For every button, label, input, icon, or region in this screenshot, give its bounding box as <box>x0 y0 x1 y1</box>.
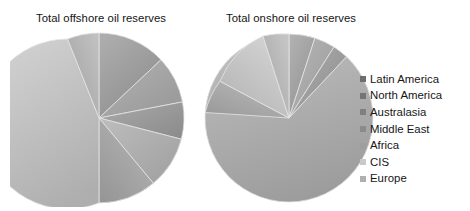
legend-item-cis[interactable]: CIS <box>360 154 468 171</box>
legend-label: Middle East <box>370 123 430 136</box>
legend-item-australasia[interactable]: Australasia <box>360 104 468 121</box>
legend-item-middle-east[interactable]: Middle East <box>360 121 468 138</box>
legend-item-north-america[interactable]: North America <box>360 88 468 105</box>
legend-swatch-icon <box>360 93 366 99</box>
legend-swatch-icon <box>360 143 366 149</box>
legend-swatch-icon <box>360 109 366 115</box>
legend-label: Africa <box>370 139 399 152</box>
chart-offshore-title: Total offshore oil reserves <box>6 12 196 25</box>
legend-item-latin-america[interactable]: Latin America <box>360 71 468 88</box>
legend-swatch-icon <box>360 159 366 165</box>
legend: Latin America North America Australasia … <box>360 71 468 187</box>
legend-item-africa[interactable]: Africa <box>360 137 468 154</box>
chart-onshore-title: Total onshore oil reserves <box>196 12 386 25</box>
legend-label: Latin America <box>370 73 439 86</box>
legend-swatch-icon <box>360 76 366 82</box>
legend-swatch-icon <box>360 126 366 132</box>
legend-label: Australasia <box>370 106 426 119</box>
legend-label: North America <box>370 89 442 102</box>
pie-offshore <box>10 29 188 207</box>
figure-canvas: Total offshore oil reserves <box>0 0 470 211</box>
pie-onshore <box>200 29 378 207</box>
legend-label: CIS <box>370 156 389 169</box>
pie-onshore-svg <box>200 29 378 207</box>
pie-offshore-svg <box>10 29 188 207</box>
legend-item-europe[interactable]: Europe <box>360 171 468 188</box>
legend-swatch-icon <box>360 176 366 182</box>
chart-onshore: Total onshore oil reserves <box>196 0 386 211</box>
legend-label: Europe <box>370 172 407 185</box>
chart-offshore: Total offshore oil reserves <box>6 0 196 211</box>
